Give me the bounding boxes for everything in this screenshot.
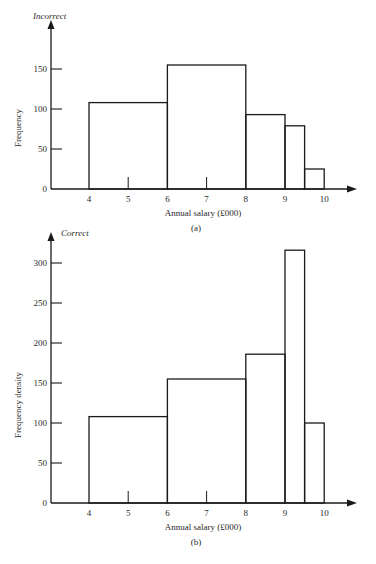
histogram-bar: [285, 126, 305, 189]
histogram-bar: [246, 115, 285, 189]
x-tick-label: 7: [204, 194, 209, 204]
histogram-bar: [167, 65, 245, 189]
x-tick-label: 6: [165, 508, 170, 518]
y-tick-label: 250: [34, 298, 48, 308]
y-tick-label: 50: [38, 458, 48, 468]
histogram-figure: Incorrect050100150Frequency45678910Annua…: [0, 0, 376, 564]
x-tick-label: 5: [126, 194, 131, 204]
x-axis-label: Annual salary (£000): [165, 208, 241, 218]
x-tick-label: 9: [283, 194, 288, 204]
histogram-bar: [246, 354, 285, 503]
y-tick-label: 50: [38, 144, 48, 154]
histogram-bar: [285, 250, 305, 503]
x-axis-label: Annual salary (£000): [165, 522, 241, 532]
x-tick-label: 5: [126, 508, 131, 518]
x-tick-label: 6: [165, 194, 170, 204]
histogram-bar: [305, 423, 325, 503]
x-tick-label: 7: [204, 508, 209, 518]
x-tick-label: 8: [244, 194, 249, 204]
panel-label: (a): [191, 223, 201, 233]
y-tick-label: 0: [43, 498, 48, 508]
x-tick-label: 9: [283, 508, 288, 518]
y-tick-label: 200: [34, 338, 48, 348]
histogram-bar: [89, 417, 167, 503]
chart-title: Incorrect: [32, 11, 67, 21]
chart-panel-b: Correct050100150200250300Frequency densi…: [13, 228, 357, 547]
y-tick-label: 100: [34, 418, 48, 428]
histogram-bar: [89, 103, 167, 189]
y-tick-label: 100: [34, 104, 48, 114]
chart-panel-a: Incorrect050100150Frequency45678910Annua…: [13, 11, 357, 233]
y-tick-label: 150: [34, 64, 48, 74]
x-tick-label: 10: [320, 194, 330, 204]
y-tick-label: 150: [34, 378, 48, 388]
chart-title: Correct: [61, 228, 89, 238]
x-tick-label: 8: [244, 508, 249, 518]
x-tick-label: 10: [320, 508, 330, 518]
y-axis-arrow-icon: [48, 20, 55, 29]
y-tick-label: 300: [34, 258, 48, 268]
x-tick-label: 4: [87, 508, 92, 518]
panel-label: (b): [191, 537, 202, 547]
x-axis-arrow-icon: [347, 186, 357, 193]
histogram-bar: [167, 379, 245, 503]
y-axis-arrow-icon: [48, 232, 55, 241]
y-axis-label: Frequency density: [13, 371, 23, 438]
x-tick-label: 4: [87, 194, 92, 204]
histogram-bar: [305, 169, 325, 189]
y-tick-label: 0: [43, 184, 48, 194]
y-axis-label: Frequency: [13, 109, 23, 147]
x-axis-arrow-icon: [347, 500, 357, 507]
